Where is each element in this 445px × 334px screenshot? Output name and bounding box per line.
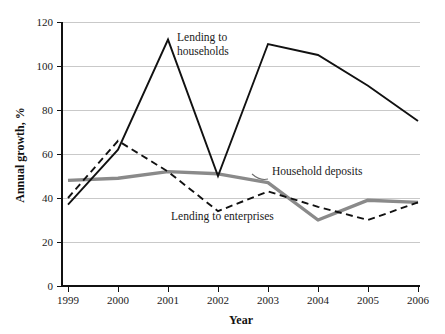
y-tick-label-120: 120 — [37, 16, 54, 28]
y-tick-label-0: 0 — [48, 280, 54, 292]
chart-svg: 120 100 80 60 40 20 0 1999 2000 2001 200… — [0, 0, 445, 334]
x-tick-label-2002: 2002 — [207, 294, 229, 306]
x-axis-title: Year — [229, 313, 254, 327]
x-tick-label-2006: 2006 — [407, 294, 430, 306]
annotation-lending-enterprises: Lending to enterprises — [171, 210, 274, 223]
x-tick-label-2000: 2000 — [107, 294, 130, 306]
x-tick-label-2005: 2005 — [357, 294, 380, 306]
x-tick-label-1999: 1999 — [57, 294, 80, 306]
y-tick-label-60: 60 — [42, 148, 54, 160]
annotation-households-line2: households — [177, 45, 229, 57]
y-tick-label-100: 100 — [37, 60, 54, 72]
line-chart-figure: 120 100 80 60 40 20 0 1999 2000 2001 200… — [0, 0, 445, 334]
x-tick-label-2004: 2004 — [307, 294, 330, 306]
x-tick-label-2003: 2003 — [257, 294, 280, 306]
annotation-household-deposits: Household deposits — [272, 165, 363, 178]
y-tick-label-80: 80 — [42, 104, 54, 116]
x-tick-label-2001: 2001 — [157, 294, 179, 306]
annotation-households-line1: Lending to — [177, 31, 227, 44]
y-axis-title: Annual growth, % — [13, 107, 27, 202]
y-tick-label-20: 20 — [42, 236, 54, 248]
y-tick-label-40: 40 — [42, 192, 54, 204]
